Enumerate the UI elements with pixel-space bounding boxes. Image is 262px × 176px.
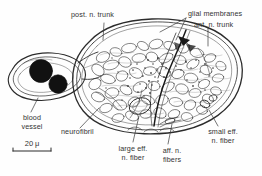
small-efferent-fiber xyxy=(199,94,218,109)
blood-cell xyxy=(49,75,67,93)
label-small-eff-line2: n. fiber xyxy=(198,137,248,145)
label-neurofibril: neurofibril xyxy=(61,128,94,136)
label-aff-n-line2: fibers xyxy=(155,156,189,164)
scale-bar-value: 20 xyxy=(25,139,33,148)
scale-bar-unit: μ xyxy=(35,139,39,148)
label-post-n-trunk: post. n. trunk xyxy=(71,11,114,19)
nerve-cord-sheath xyxy=(73,19,243,134)
figure-panel: post. n. trunk glial membranes ant. n. t… xyxy=(0,0,262,176)
scale-bar-label: 20 μ xyxy=(13,139,51,148)
label-blood-vessel-line2: vessel xyxy=(15,123,49,131)
label-glial-membranes: glial membranes xyxy=(188,10,242,18)
nerve-cord-interior xyxy=(87,30,230,127)
scale-bar xyxy=(13,148,51,151)
label-ant-n-trunk: ant. n. trunk xyxy=(194,21,233,29)
label-large-eff-line2: n. fiber xyxy=(110,154,156,162)
blood-cell xyxy=(30,60,53,83)
